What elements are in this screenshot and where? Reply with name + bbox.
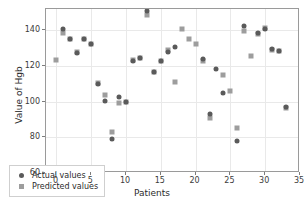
x-axis-tick-label: 25: [224, 176, 234, 185]
data-point-predicted: [117, 101, 122, 106]
x-axis-tick: [229, 172, 230, 175]
plot-area: [45, 8, 299, 172]
y-axis-tick: [42, 29, 45, 30]
legend-label-actual: Actual values: [32, 171, 86, 180]
data-point-predicted: [110, 129, 115, 134]
gridline-vertical: [161, 9, 162, 171]
data-point-predicted: [186, 36, 191, 41]
x-axis-tick-label: 20: [190, 176, 200, 185]
data-point-predicted: [235, 126, 240, 131]
data-point-actual: [214, 66, 219, 71]
data-point-actual: [68, 36, 73, 41]
data-point-actual: [256, 31, 261, 36]
data-point-actual: [103, 99, 108, 104]
data-point-actual: [61, 26, 66, 31]
data-point-actual: [263, 26, 268, 31]
data-point-predicted: [228, 88, 233, 93]
data-point-actual: [207, 111, 212, 116]
x-axis-tick-label: 35: [294, 176, 304, 185]
gridline-vertical: [91, 9, 92, 171]
data-point-predicted: [172, 80, 177, 85]
square-marker-icon: [15, 184, 27, 189]
x-axis-tick: [299, 172, 300, 175]
x-axis-tick-label: 30: [259, 176, 269, 185]
y-axis-tick-label: 80: [16, 132, 40, 141]
y-axis-tick-label: 100: [16, 96, 40, 105]
data-point-actual: [270, 47, 275, 52]
y-axis-tick-label: 60: [16, 168, 40, 177]
data-point-predicted: [61, 31, 66, 36]
data-point-predicted: [179, 26, 184, 31]
x-axis-tick: [90, 172, 91, 175]
data-point-actual: [158, 59, 163, 64]
gridline-vertical: [196, 9, 197, 171]
x-axis-tick: [160, 172, 161, 175]
data-point-actual: [221, 90, 226, 95]
data-point-predicted: [249, 53, 254, 58]
data-point-actual: [235, 138, 240, 143]
data-point-predicted: [221, 73, 226, 78]
scatter-chart-figure: Value of Hgb Patients Actual values Pred…: [0, 0, 304, 203]
y-axis-tick: [42, 172, 45, 173]
y-axis-tick: [42, 136, 45, 137]
data-point-actual: [277, 48, 282, 53]
x-axis-tick-label: 0: [53, 176, 58, 185]
data-point-actual: [110, 137, 115, 142]
gridline-horizontal: [46, 66, 298, 67]
data-point-predicted: [54, 57, 59, 62]
y-axis-tick-label: 120: [16, 61, 40, 70]
x-axis-tick-label: 10: [120, 176, 130, 185]
data-point-actual: [75, 50, 80, 55]
data-point-actual: [151, 70, 156, 75]
gridline-vertical: [265, 9, 266, 171]
y-axis-tick: [42, 101, 45, 102]
data-point-predicted: [103, 93, 108, 98]
y-axis-tick-label: 140: [16, 25, 40, 34]
x-axis-tick: [195, 172, 196, 175]
data-point-actual: [82, 36, 87, 41]
x-axis-tick: [55, 172, 56, 175]
data-point-actual: [284, 105, 289, 110]
gridline-vertical: [126, 9, 127, 171]
data-point-actual: [137, 56, 142, 61]
data-point-actual: [130, 58, 135, 63]
x-axis-tick: [264, 172, 265, 175]
x-axis-tick-label: 5: [88, 176, 93, 185]
y-axis-tick: [42, 65, 45, 66]
data-point-actual: [172, 44, 177, 49]
data-point-predicted: [144, 13, 149, 18]
data-point-actual: [242, 24, 247, 29]
data-point-predicted: [242, 28, 247, 33]
x-axis-tick-label: 15: [155, 176, 165, 185]
data-point-actual: [200, 57, 205, 62]
gridline-vertical: [56, 9, 57, 171]
data-point-actual: [117, 94, 122, 99]
data-point-actual: [124, 100, 129, 105]
data-point-actual: [144, 8, 149, 13]
data-point-predicted: [193, 41, 198, 46]
gridline-horizontal: [46, 137, 298, 138]
data-point-actual: [89, 41, 94, 46]
data-point-actual: [96, 82, 101, 87]
data-point-actual: [165, 50, 170, 55]
gridline-horizontal: [46, 102, 298, 103]
x-axis-tick: [125, 172, 126, 175]
